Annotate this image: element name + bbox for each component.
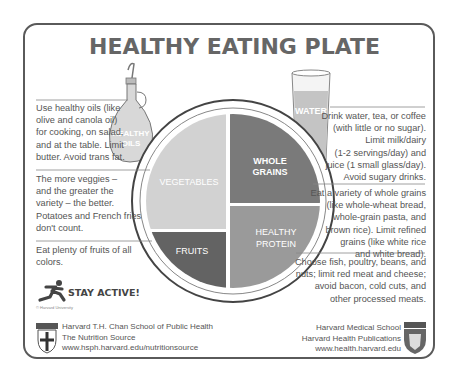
grains-note-line: whole-grain pasta, and xyxy=(311,211,426,223)
whole-grains-label: WHOLE xyxy=(253,156,287,166)
vegetables-note-line: don't count. xyxy=(36,222,141,234)
oil-note-line: for cooking, on salad, xyxy=(36,126,125,138)
footer-source-name: The Nutrition Source xyxy=(62,333,213,344)
oil-note-line: Use healthy oils (like xyxy=(36,102,125,114)
fruits-label: FRUITS xyxy=(176,246,209,256)
footer-left: Harvard T.H. Chan School of Public Healt… xyxy=(62,322,213,354)
oil-note-line: and at the table. Limit xyxy=(36,139,125,151)
healthy-protein-label: HEALTHY xyxy=(256,227,297,237)
vegetables-note-line: variety – the better. xyxy=(36,197,141,209)
water-note-line: juice (1 small glass/day). xyxy=(321,159,426,171)
protein-note: Choose fish, poultry, beans, and nuts; l… xyxy=(295,256,426,305)
water-note: Drink water, tea, or coffee (with little… xyxy=(321,110,426,183)
grains-note-line: (like whole-wheat bread, xyxy=(311,199,426,211)
grains-note-line: grains (like white rice xyxy=(311,236,426,248)
vegetables-note-line: Potatoes and French fries xyxy=(36,210,141,222)
water-note-line: Limit milk/dairy xyxy=(321,134,426,146)
protein-note-line: nuts; limit red meat and cheese; xyxy=(295,268,426,280)
grains-note-line: brown rice). Limit refined xyxy=(311,224,426,236)
footer-publication-name: Harvard Health Publications xyxy=(302,334,401,345)
vegetables-note-line: and the greater the xyxy=(36,185,141,197)
copyright-text: © Harvard University xyxy=(36,305,73,310)
running-person-icon xyxy=(40,280,64,300)
fruits-note-line: Eat plenty of fruits of all xyxy=(36,244,132,256)
footer-right: Harvard Medical School Harvard Health Pu… xyxy=(302,323,401,355)
grains-note-line: Eat a variety of whole grains xyxy=(311,187,426,199)
water-note-line: (1-2 servings/day) and xyxy=(321,147,426,159)
whole-grains-label-2: GRAINS xyxy=(252,167,287,177)
harvard-chan-shield-icon xyxy=(36,323,58,353)
footer-link[interactable]: www.hsph.harvard.edu/nutritionsource xyxy=(62,343,213,354)
protein-note-line: other processed meats. xyxy=(295,293,426,305)
vegetables-note: The more veggies – and the greater the v… xyxy=(36,173,141,234)
water-note-line: Avoid sugary drinks. xyxy=(321,171,426,183)
vegetables-note-line: The more veggies – xyxy=(36,173,141,185)
oil-note-line: butter. Avoid trans fat. xyxy=(36,151,125,163)
protein-note-line: Choose fish, poultry, beans, and xyxy=(295,256,426,268)
footer-school-name: Harvard T.H. Chan School of Public Healt… xyxy=(62,322,213,333)
fruits-note: Eat plenty of fruits of all colors. xyxy=(36,244,132,268)
fruits-note-line: colors. xyxy=(36,256,132,268)
harvard-medical-shield-icon xyxy=(404,322,426,354)
vegetables-label: VEGETABLES xyxy=(160,177,219,187)
footer-link[interactable]: www.health.harvard.edu xyxy=(302,344,401,355)
protein-note-line: avoid bacon, cold cuts, and xyxy=(295,280,426,292)
stay-active-label: STAY ACTIVE! xyxy=(68,287,140,298)
water-note-line: (with little or no sugar). xyxy=(321,122,426,134)
oil-note-line: olive and canola oil) xyxy=(36,114,125,126)
oil-note: Use healthy oils (like olive and canola … xyxy=(36,102,125,163)
healthy-protein-label-2: PROTEIN xyxy=(256,239,296,249)
grains-note: Eat a variety of whole grains (like whol… xyxy=(311,187,426,260)
water-note-line: Drink water, tea, or coffee xyxy=(321,110,426,122)
footer-school-name: Harvard Medical School xyxy=(302,323,401,334)
